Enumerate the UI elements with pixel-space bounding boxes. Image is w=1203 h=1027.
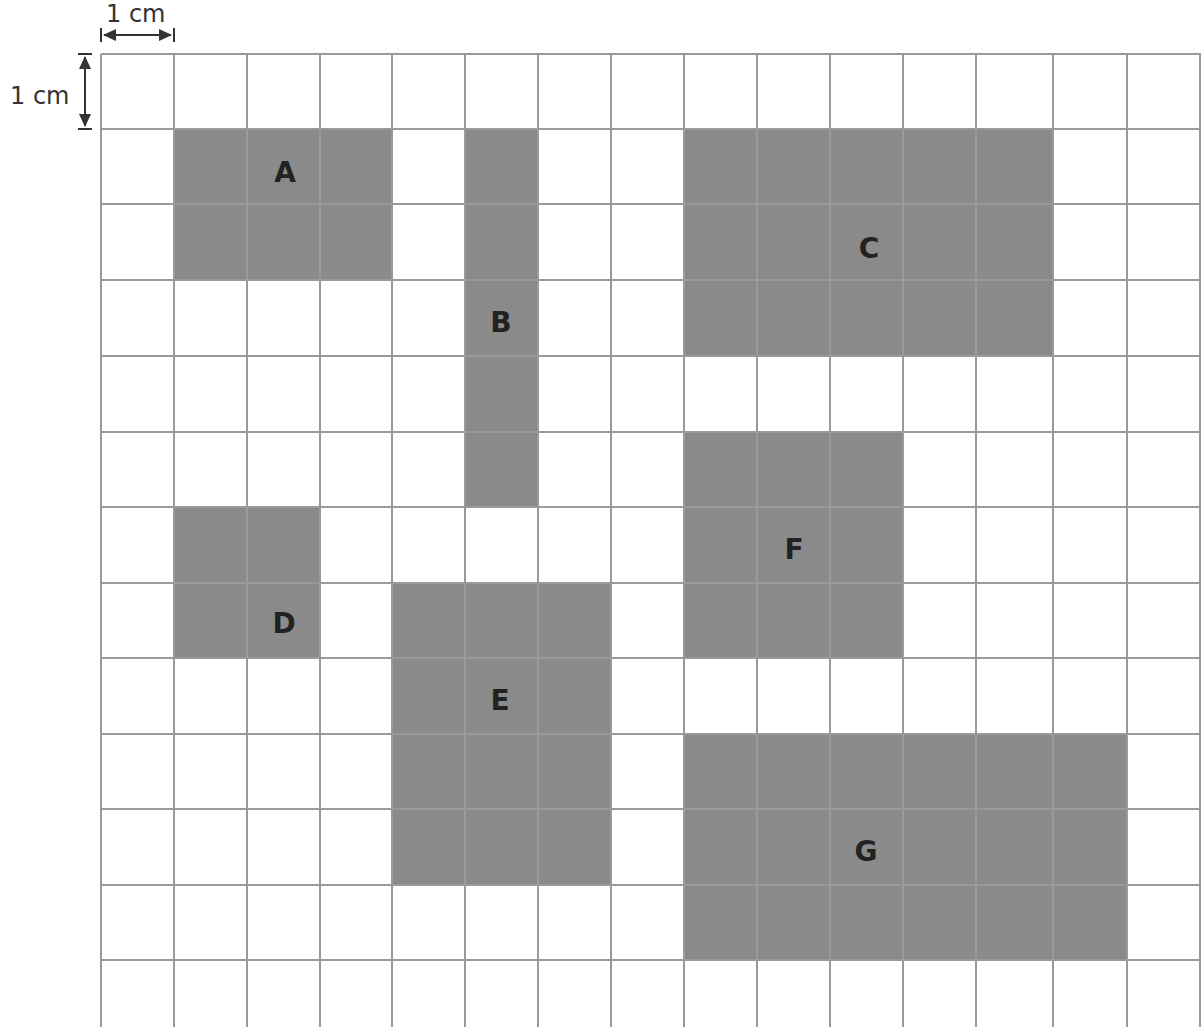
- grid-vertical-line: [246, 54, 248, 1027]
- shape-g: [684, 734, 1127, 960]
- grid-horizontal-line: [101, 279, 1201, 281]
- shape-label-f: F: [784, 533, 803, 566]
- shape-label-g: G: [855, 835, 878, 868]
- grid-vertical-line: [100, 54, 102, 1027]
- grid-horizontal-line: [101, 657, 1201, 659]
- grid-vertical-line: [1126, 54, 1128, 1027]
- grid-horizontal-line: [101, 203, 1201, 205]
- grid-horizontal-line: [101, 884, 1201, 886]
- grid-vertical-line: [173, 54, 175, 1027]
- grid-horizontal-line: [101, 431, 1201, 433]
- grid-vertical-line: [1199, 54, 1201, 1027]
- grid-vertical-line: [537, 54, 539, 1027]
- grid-vertical-line: [319, 54, 321, 1027]
- grid-vertical-line: [902, 54, 904, 1027]
- grid-horizontal-line: [101, 959, 1201, 961]
- grid-diagram: ABCDEFG 1 cm 1 cm: [0, 0, 1203, 1027]
- grid-vertical-line: [756, 54, 758, 1027]
- grid-vertical-line: [464, 54, 466, 1027]
- vertical-scale-arrow-icon: [78, 54, 92, 129]
- horizontal-scale-arrow-icon: [101, 28, 174, 42]
- grid-horizontal-line: [101, 582, 1201, 584]
- grid-horizontal-line: [101, 506, 1201, 508]
- scale-indicators: [0, 0, 1203, 140]
- grid-vertical-line: [975, 54, 977, 1027]
- grid-vertical-line: [1052, 54, 1054, 1027]
- vertical-scale-label: 1 cm: [10, 82, 69, 110]
- grid-vertical-line: [683, 54, 685, 1027]
- shape-label-a: A: [274, 156, 296, 189]
- shape-label-d: D: [272, 607, 295, 640]
- shape-label-c: C: [859, 232, 880, 265]
- grid-vertical-line: [610, 54, 612, 1027]
- grid-horizontal-line: [101, 808, 1201, 810]
- shape-label-b: B: [490, 306, 511, 339]
- grid-vertical-line: [391, 54, 393, 1027]
- horizontal-scale-label: 1 cm: [106, 0, 165, 28]
- shape-label-e: E: [490, 684, 509, 717]
- grid-horizontal-line: [101, 355, 1201, 357]
- grid-horizontal-line: [101, 733, 1201, 735]
- grid-vertical-line: [829, 54, 831, 1027]
